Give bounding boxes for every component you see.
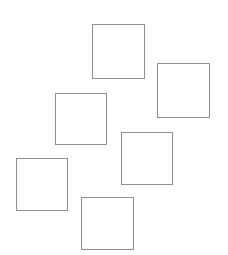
square-4 xyxy=(121,132,173,185)
shape-canvas xyxy=(0,0,228,255)
square-3 xyxy=(55,93,107,145)
square-5 xyxy=(16,158,68,211)
square-1 xyxy=(92,24,145,79)
square-2 xyxy=(157,63,210,118)
square-6 xyxy=(81,197,134,250)
